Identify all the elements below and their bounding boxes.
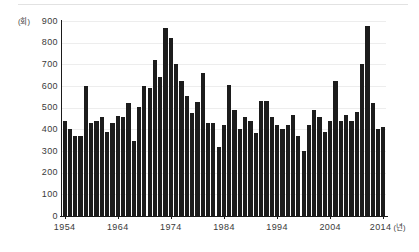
x-tick-label-1994: 1994 [266, 222, 288, 232]
bar [264, 101, 268, 216]
y-tick-label-500: 500 [14, 103, 58, 112]
bar [360, 64, 364, 216]
bar [333, 81, 337, 216]
x-tick-mark-1984 [224, 216, 225, 219]
bar [254, 133, 258, 216]
bar [206, 123, 210, 216]
bar [137, 107, 141, 216]
y-tick-label-600: 600 [14, 82, 58, 91]
bar [339, 121, 343, 216]
bar [280, 129, 284, 216]
bar [371, 103, 375, 216]
bar [381, 127, 385, 216]
x-tick-mark-2014 [383, 216, 384, 219]
bar [158, 77, 162, 216]
bar [232, 110, 236, 216]
bar [227, 85, 231, 216]
x-tick-label-2004: 2004 [319, 222, 341, 232]
bar [291, 115, 295, 216]
bar [312, 110, 316, 216]
bar [126, 103, 130, 216]
bar [259, 101, 263, 216]
bar [100, 117, 104, 216]
bar [190, 113, 194, 216]
bar [132, 141, 136, 216]
bar [286, 125, 290, 216]
x-tick-label-1984: 1984 [213, 222, 235, 232]
bar [317, 117, 321, 216]
bar-chart: 0100200300400500600700800900(회) 19541964… [0, 0, 419, 252]
bar [201, 73, 205, 216]
bar [169, 38, 173, 216]
x-tick-mark-1964 [118, 216, 119, 219]
y-tick-label-0: 0 [14, 212, 58, 221]
bar [307, 125, 311, 216]
bar [185, 96, 189, 216]
bar [195, 102, 199, 216]
bar [275, 125, 279, 216]
bar [163, 28, 167, 217]
y-tick-label-700: 700 [14, 60, 58, 69]
bar [153, 60, 157, 216]
y-axis-unit-label: (회) [18, 17, 30, 26]
bar [110, 123, 114, 216]
y-tick-label-300: 300 [14, 147, 58, 156]
bar [302, 151, 306, 216]
bar [174, 64, 178, 216]
y-axis-tick-labels: 0100200300400500600700800900(회) [8, 0, 58, 252]
bar [78, 136, 82, 216]
bar [376, 129, 380, 216]
bar [121, 117, 125, 216]
x-tick-mark-1994 [277, 216, 278, 219]
bar [238, 129, 242, 216]
bar [344, 115, 348, 216]
bar [105, 132, 109, 217]
x-tick-label-1974: 1974 [160, 222, 182, 232]
x-tick-mark-1974 [171, 216, 172, 219]
bar [296, 136, 300, 216]
bar [94, 121, 98, 216]
plot-area [62, 21, 386, 216]
bar [222, 125, 226, 216]
bar [248, 121, 252, 216]
x-tick-label-text: 2014 [370, 222, 392, 232]
bar [73, 136, 77, 216]
bar [323, 132, 327, 217]
bar [142, 86, 146, 216]
y-tick-label-100: 100 [14, 190, 58, 199]
x-tick-mark-2004 [330, 216, 331, 219]
x-axis-unit-label: (년) [391, 223, 405, 232]
x-tick-label-1964: 1964 [107, 222, 129, 232]
bar [270, 117, 274, 216]
bar [243, 117, 247, 216]
top-divider [18, 4, 408, 5]
bar [211, 123, 215, 216]
bar [68, 129, 72, 216]
bar [328, 121, 332, 216]
bar [349, 121, 353, 216]
bar-series [62, 21, 386, 216]
bar [355, 112, 359, 216]
x-tick-label-1954: 1954 [54, 222, 76, 232]
bar [179, 81, 183, 216]
y-tick-label-800: 800 [14, 38, 58, 47]
x-tick-mark-1954 [65, 216, 66, 219]
bar [217, 147, 221, 216]
bar [116, 116, 120, 216]
bar [365, 26, 369, 216]
x-tick-label-2014: 2014 (년) [370, 222, 406, 233]
y-tick-label-200: 200 [14, 168, 58, 177]
bar [84, 86, 88, 216]
y-tick-label-400: 400 [14, 125, 58, 134]
bar [148, 88, 152, 216]
bar [63, 121, 67, 216]
bar [89, 123, 93, 216]
